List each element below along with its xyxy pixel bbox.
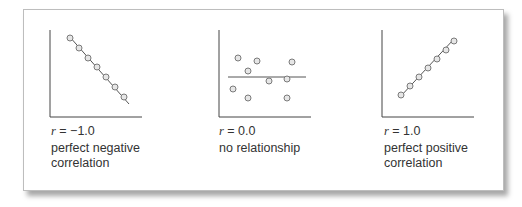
caption-none: no relationship xyxy=(219,141,300,156)
plot-positive xyxy=(382,30,474,117)
caption-positive: perfect positive correlation xyxy=(384,141,468,171)
plot-none xyxy=(219,30,311,117)
r-label-positive: r = 1.0 xyxy=(384,124,421,139)
caption-negative: perfect negative correlation xyxy=(51,141,140,171)
r-label-negative: r = −1.0 xyxy=(51,124,95,139)
plot-negative xyxy=(50,30,142,117)
r-label-none: r = 0.0 xyxy=(219,124,256,139)
correlation-plots xyxy=(0,0,522,207)
